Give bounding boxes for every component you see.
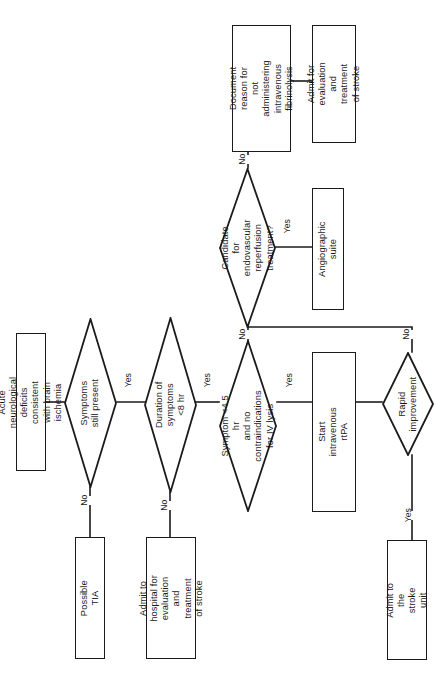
node-start-rtpa-label: Start intravenous rtPA — [317, 407, 350, 456]
diamond-shape — [219, 168, 276, 328]
node-start-label: Acute neurological deficits consistent w… — [0, 376, 64, 427]
node-symptom-45hr[interactable]: Symptom <4.5 hr and no contraindications… — [219, 340, 277, 512]
node-duration-8hr[interactable]: Duration of symptoms <8 hr — [144, 317, 197, 493]
diamond-shape — [219, 340, 277, 512]
diamond-shape — [64, 318, 117, 488]
node-document-reason[interactable]: Document reason for not administering in… — [232, 25, 291, 152]
node-admit-evaluation[interactable]: Admit for evaluation and treatment of st… — [312, 25, 356, 143]
edge-label-duration-no: No — [158, 501, 171, 510]
edge-label-endo-yes: Yes — [279, 222, 295, 231]
node-admit-hospital-label: Admit to hospital for evaluation and tre… — [138, 574, 205, 622]
node-admit-hospital[interactable]: Admit to hospital for evaluation and tre… — [146, 537, 196, 659]
edge-label-symptoms-yes: Yes — [120, 376, 136, 385]
node-angiographic-suite-label: Angiographic suite — [317, 221, 339, 276]
node-symptoms-still-present[interactable]: Symptoms still present — [64, 318, 117, 488]
node-angiographic-suite[interactable]: Angiographic suite — [312, 188, 344, 310]
node-admit-stroke-unit-label: Admit to the stroke unit — [385, 581, 430, 619]
node-admit-stroke-unit[interactable]: Admit to the stroke unit — [387, 540, 427, 660]
edge-label-lysis-no: No — [236, 330, 249, 339]
edge-label-duration-yes: Yes — [199, 376, 215, 385]
diamond-shape — [144, 317, 197, 493]
node-admit-evaluation-label: Admit for evaluation and treatment of st… — [306, 62, 362, 105]
node-rapid-improvement[interactable]: Rapid improvement — [382, 352, 434, 456]
diamond-shape — [382, 352, 434, 456]
edge-label-lysis-yes: Yes — [281, 376, 297, 385]
node-endovascular-candidate[interactable]: Candidate for endovascular reperfusion t… — [219, 168, 276, 328]
edge-label-rapid-yes: Yes — [400, 511, 416, 520]
edge-label-endo-no: No — [236, 155, 249, 164]
node-possible-tia-label: Possible TIA — [79, 580, 101, 616]
node-document-reason-label: Document reason for not administering in… — [228, 60, 295, 117]
node-start[interactable]: Acute neurological deficits consistent w… — [16, 333, 46, 471]
edge-label-symptoms-no: No — [78, 496, 91, 505]
edge-label-rapid-no: No — [400, 330, 413, 339]
node-possible-tia[interactable]: Possible TIA — [75, 537, 105, 659]
flowchart-canvas: Acute neurological deficits consistent w… — [0, 0, 436, 686]
node-start-rtpa[interactable]: Start intravenous rtPA — [312, 352, 356, 512]
